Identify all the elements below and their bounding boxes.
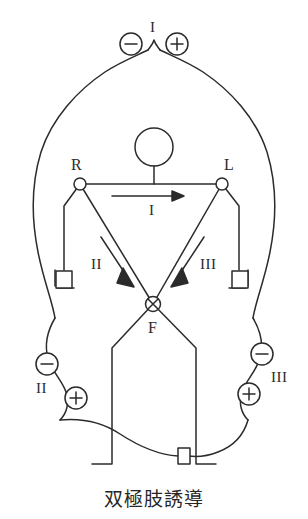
triangle-side-III: [153, 184, 222, 304]
lead-I-arrow-head: [172, 191, 184, 201]
heart-circle: [135, 128, 173, 166]
ecg-bipolar-limb-lead-diagram: I R L I II III F II III 双極肢誘導: [0, 0, 308, 519]
lead-III-arrow-label: III: [200, 257, 217, 272]
diagram-canvas: [0, 0, 308, 519]
electrode-box-left-arm: [56, 271, 72, 288]
right-leg-outline: [153, 304, 216, 464]
lead-III-wire: [188, 420, 248, 456]
lead-II-side-label: II: [36, 381, 47, 396]
electrode-box-right-arm: [232, 271, 248, 288]
lead-III-side-label: III: [271, 370, 288, 385]
lead-II-arrow-label: II: [91, 257, 102, 272]
node-R-label: R: [71, 157, 82, 173]
left-arm-inner: [64, 184, 80, 270]
right-arm-inner: [222, 184, 239, 270]
figure-caption: 双極肢誘導: [0, 484, 308, 511]
node-L-label: L: [224, 157, 234, 173]
left-leg-outline: [92, 304, 153, 464]
neck-notch: [148, 40, 160, 50]
triangle-side-II: [80, 184, 153, 304]
electrode-box-foot: [178, 448, 190, 464]
node-F-label: F: [148, 320, 157, 336]
node-L-marker: [216, 178, 228, 190]
node-R-marker: [74, 178, 86, 190]
lead-II-arrow-head: [117, 268, 134, 287]
lead-III-arrow-head: [171, 268, 188, 287]
lead-I-top-label: I: [150, 20, 156, 35]
lead-I-arrow-label: I: [149, 203, 155, 218]
lead-II-wire: [60, 420, 178, 456]
